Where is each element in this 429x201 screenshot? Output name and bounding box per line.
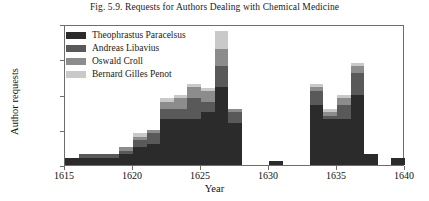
x-tick-label: 1635 bbox=[326, 170, 346, 181]
bar-1623 bbox=[174, 95, 188, 166]
bar-segment bbox=[201, 91, 215, 102]
x-tick-label: 1640 bbox=[394, 170, 414, 181]
bar-segment bbox=[187, 119, 201, 165]
x-tick-mark bbox=[268, 166, 269, 170]
x-tick-mark bbox=[200, 166, 201, 170]
bar-segment bbox=[351, 95, 365, 165]
bar-1617 bbox=[92, 154, 106, 165]
bar-segment bbox=[215, 66, 229, 87]
x-tick-label: 1630 bbox=[258, 170, 278, 181]
bar-segment bbox=[201, 112, 215, 165]
bar-segment bbox=[391, 158, 405, 165]
x-tick-label: 1620 bbox=[122, 170, 142, 181]
bar-segment bbox=[269, 161, 283, 165]
bar-segment bbox=[215, 49, 229, 67]
legend-swatch-icon bbox=[66, 71, 86, 78]
bar-1639 bbox=[391, 158, 405, 165]
bar-segment bbox=[187, 87, 201, 98]
legend-label: Andreas Libavius bbox=[92, 43, 159, 53]
x-tick-mark bbox=[64, 166, 65, 170]
legend-label: Theophrastus Paracelsus bbox=[92, 30, 186, 40]
bar-segment bbox=[133, 147, 147, 165]
bar-1635 bbox=[337, 95, 351, 166]
bar-segment bbox=[65, 158, 79, 165]
bar-1624 bbox=[187, 84, 201, 165]
legend-label: Bernard Gilles Penot bbox=[92, 69, 172, 79]
bar-1633 bbox=[310, 84, 324, 165]
bar-segment bbox=[215, 31, 229, 49]
bar-segment bbox=[364, 154, 378, 165]
legend-item: Oswald Croll bbox=[66, 55, 186, 67]
bar-segment bbox=[79, 158, 93, 165]
bar-1625 bbox=[201, 87, 215, 165]
y-axis-label: Author requests bbox=[9, 37, 20, 167]
chart-title: Fig. 5.9. Requests for Authors Dealing w… bbox=[0, 2, 429, 12]
bar-1616 bbox=[79, 154, 93, 165]
bar-1636 bbox=[351, 63, 365, 165]
bar-1622 bbox=[160, 98, 174, 165]
bar-segment bbox=[119, 154, 133, 165]
bar-1626 bbox=[215, 31, 229, 165]
x-tick-label: 1625 bbox=[190, 170, 210, 181]
x-tick-label: 1615 bbox=[54, 170, 74, 181]
bar-segment bbox=[310, 91, 324, 105]
bar-1615 bbox=[65, 158, 79, 165]
bar-segment bbox=[160, 102, 174, 109]
legend-swatch-icon bbox=[66, 45, 86, 52]
bar-1619 bbox=[119, 147, 133, 165]
bar-1627 bbox=[228, 109, 242, 165]
bar-segment bbox=[337, 105, 351, 119]
bar-segment bbox=[310, 105, 324, 165]
bar-segment bbox=[337, 119, 351, 165]
x-axis-label: Year bbox=[0, 183, 429, 194]
legend-item: Bernard Gilles Penot bbox=[66, 68, 186, 80]
bar-segment bbox=[351, 66, 365, 73]
legend: Theophrastus ParacelsusAndreas LibaviusO… bbox=[66, 29, 186, 81]
bar-segment bbox=[174, 109, 188, 120]
bar-segment bbox=[133, 140, 147, 147]
bar-segment bbox=[174, 119, 188, 165]
legend-swatch-icon bbox=[66, 32, 86, 39]
bar-segment bbox=[147, 144, 161, 165]
bar-segment bbox=[147, 133, 161, 144]
legend-item: Theophrastus Paracelsus bbox=[66, 29, 186, 41]
bar-segment bbox=[174, 98, 188, 109]
bar-segment bbox=[187, 98, 201, 119]
figure: Fig. 5.9. Requests for Authors Dealing w… bbox=[0, 0, 429, 201]
bar-1630 bbox=[269, 161, 283, 165]
bar-1620 bbox=[133, 133, 147, 165]
bar-segment bbox=[160, 119, 174, 165]
legend-label: Oswald Croll bbox=[92, 56, 143, 66]
x-tick-mark bbox=[404, 166, 405, 170]
x-tick-mark bbox=[132, 166, 133, 170]
bar-segment bbox=[323, 119, 337, 165]
bar-segment bbox=[92, 158, 106, 165]
bar-1637 bbox=[364, 154, 378, 165]
bar-segment bbox=[337, 98, 351, 105]
legend-item: Andreas Libavius bbox=[66, 42, 186, 54]
bar-segment bbox=[160, 109, 174, 120]
bar-segment bbox=[228, 123, 242, 165]
legend-swatch-icon bbox=[66, 58, 86, 65]
bar-segment bbox=[106, 158, 120, 165]
bar-1621 bbox=[147, 130, 161, 165]
bar-1634 bbox=[323, 109, 337, 165]
bar-segment bbox=[215, 87, 229, 165]
x-tick-mark bbox=[336, 166, 337, 170]
bar-1618 bbox=[106, 154, 120, 165]
bar-segment bbox=[201, 102, 215, 113]
bar-segment bbox=[228, 112, 242, 123]
bar-segment bbox=[351, 73, 365, 94]
